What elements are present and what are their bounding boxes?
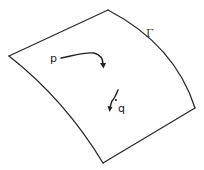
arrowhead-icon <box>108 106 113 112</box>
point-q-dot <box>115 99 117 101</box>
surface-diagram: Γ p q <box>0 0 204 170</box>
point-q-label: q <box>118 102 125 115</box>
surface-edge-left <box>9 56 103 163</box>
point-p-label: p <box>50 52 57 65</box>
curve-through-q: q <box>108 90 125 115</box>
surface-edge-top <box>9 10 108 56</box>
arrowhead-icon <box>100 63 106 69</box>
surface-gamma <box>9 10 195 163</box>
surface-edge-right <box>108 10 195 108</box>
surface-label: Γ <box>146 27 154 40</box>
curve-from-p: p <box>50 52 106 69</box>
curve-p <box>61 53 103 64</box>
surface-edge-bottom <box>103 108 195 163</box>
